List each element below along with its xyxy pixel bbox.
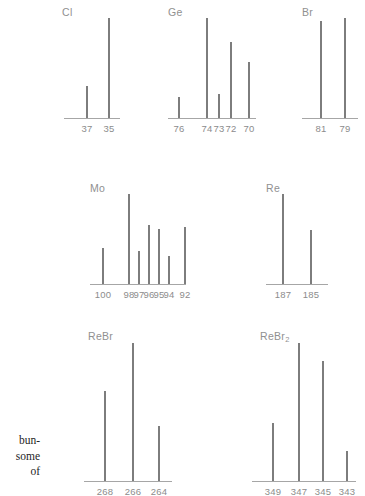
isotope-peak bbox=[298, 343, 300, 481]
isotope-peak bbox=[86, 86, 88, 118]
plot-area bbox=[88, 343, 182, 481]
axis-tick-label: 72 bbox=[226, 123, 237, 134]
plot-area bbox=[266, 194, 338, 284]
isotope-peak bbox=[272, 423, 274, 481]
isotope-peak bbox=[104, 391, 106, 481]
isotope-peak bbox=[344, 18, 346, 118]
isotope-peak bbox=[108, 18, 110, 118]
axis-tick-label: 266 bbox=[125, 486, 141, 496]
isotope-peak bbox=[218, 94, 220, 118]
axis-tick-label: 349 bbox=[265, 486, 281, 496]
isotope-peak bbox=[248, 62, 250, 118]
panel-title: Mo bbox=[90, 182, 105, 194]
axis-tick-label: 345 bbox=[315, 486, 331, 496]
isotope-peak bbox=[206, 18, 208, 118]
panel-title: ReBr bbox=[88, 330, 113, 342]
caption-line: of bbox=[0, 464, 40, 480]
plot-area bbox=[260, 343, 365, 481]
axis-tick-label: 81 bbox=[316, 123, 327, 134]
isotope-peak bbox=[102, 248, 104, 284]
axis-tick-label: 268 bbox=[97, 486, 113, 496]
isotope-peak bbox=[184, 227, 186, 284]
plot-area bbox=[90, 194, 196, 284]
axis-baseline bbox=[302, 118, 358, 119]
isotope-peak bbox=[158, 426, 160, 481]
isotope-peak bbox=[320, 21, 322, 118]
axis-tick-label: 74 bbox=[202, 123, 213, 134]
axis-baseline bbox=[84, 481, 172, 482]
axis-tick-label: 35 bbox=[104, 123, 115, 134]
axis-baseline bbox=[90, 284, 186, 285]
isotope-peak bbox=[282, 194, 284, 284]
isotope-peak bbox=[322, 361, 324, 481]
plot-area bbox=[62, 18, 130, 118]
axis-tick-label: 79 bbox=[340, 123, 351, 134]
caption-line: bun- bbox=[0, 433, 40, 449]
isotope-peak bbox=[158, 229, 160, 284]
axis-tick-label: 37 bbox=[82, 123, 93, 134]
isotope-peak bbox=[310, 230, 312, 284]
axis-tick-label: 94 bbox=[164, 289, 175, 300]
isotope-peak bbox=[148, 225, 150, 284]
isotope-peak bbox=[128, 194, 130, 284]
axis-tick-label: 264 bbox=[151, 486, 167, 496]
axis-tick-label: 185 bbox=[303, 289, 319, 300]
panel-title: Br bbox=[302, 6, 313, 18]
caption-line: some bbox=[0, 449, 40, 465]
axis-tick-label: 73 bbox=[214, 123, 225, 134]
isotope-peak bbox=[178, 97, 180, 118]
axis-tick-label: 70 bbox=[244, 123, 255, 134]
axis-baseline bbox=[252, 481, 356, 482]
isotope-peak bbox=[132, 343, 134, 481]
panel-title: Ge bbox=[168, 6, 183, 18]
axis-tick-label: 347 bbox=[291, 486, 307, 496]
panel-title: Re bbox=[266, 182, 280, 194]
axis-tick-label: 100 bbox=[95, 289, 111, 300]
axis-tick-label: 92 bbox=[180, 289, 191, 300]
caption-fragment: bun- some of bbox=[0, 433, 40, 480]
isotope-peak bbox=[168, 256, 170, 284]
plot-area bbox=[168, 18, 266, 118]
axis-baseline bbox=[64, 118, 120, 119]
axis-tick-label: 76 bbox=[174, 123, 185, 134]
isotope-peak bbox=[138, 251, 140, 284]
panel-title: Cl bbox=[62, 6, 73, 18]
axis-baseline bbox=[266, 284, 328, 285]
axis-tick-label: 187 bbox=[275, 289, 291, 300]
axis-tick-label: 343 bbox=[339, 486, 355, 496]
isotope-peak bbox=[346, 451, 348, 481]
plot-area bbox=[302, 18, 365, 118]
axis-baseline bbox=[168, 118, 256, 119]
panel-title: ReBr2 bbox=[260, 330, 290, 342]
isotope-peak bbox=[230, 42, 232, 118]
